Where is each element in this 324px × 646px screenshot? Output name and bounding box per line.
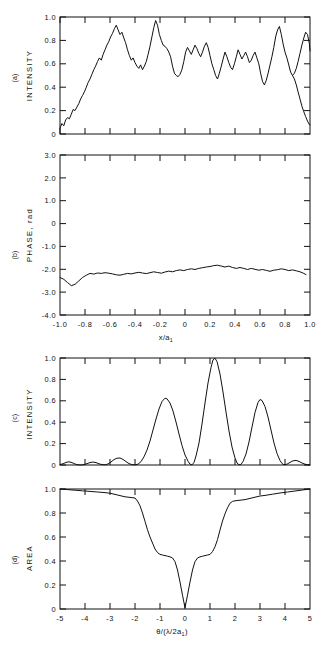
panel-d-xlabel-post: ): [185, 627, 188, 636]
panel-b-xtick-8: 0.6: [254, 320, 265, 329]
panel-d-xtick-8: 3: [258, 614, 263, 623]
panel-d-xticks: [85, 489, 285, 609]
panel-a-ytick-4: 0.8: [45, 36, 56, 45]
panel-a-ytick-3: 0.6: [45, 59, 56, 68]
panel-d-xlabel: θ/(λ/2a1): [156, 627, 188, 637]
panel-b-ytick-6: 2.0: [45, 174, 56, 183]
panel-b-xtick-9: 0.8: [279, 320, 290, 329]
panel-b: 3.0 2.0 1.0 0 -1.0 -2.0 -3.0 -4.0 -1.0 -…: [11, 151, 316, 344]
panel-b-xtick-7: 0.4: [229, 320, 240, 329]
panel-a-curve-tail: [293, 76, 311, 125]
panel-a-frame: [60, 17, 310, 134]
panel-b-xtick-6: 0.2: [204, 320, 215, 329]
multi-panel-figure: 0 0.2 0.4 0.6 0.8 1.0 INTENSITY (a): [0, 0, 324, 646]
panel-a-letter: (a): [11, 73, 19, 82]
panel-b-xtick-0: -1.0: [53, 320, 67, 329]
panel-d-yticks: [60, 489, 310, 609]
panel-a-xticks: [60, 17, 285, 134]
panel-b-xtick-1: -0.8: [78, 320, 92, 329]
panel-d-xtick-4: -1: [156, 614, 163, 623]
panel-c-curve: [60, 358, 310, 465]
panel-c-ytick-5: 1.0: [45, 354, 56, 363]
panel-c-ytick-4: 0.8: [45, 375, 56, 384]
panel-c-yticks: [60, 358, 310, 465]
panel-d-ytick-4: 0.8: [45, 509, 56, 518]
svg-text:θ/(λ/2a1): θ/(λ/2a1): [156, 627, 188, 637]
panel-d-ytick-3: 0.6: [45, 533, 56, 542]
panel-b-ytick-3: -1.0: [42, 242, 56, 251]
panel-b-ytick-0: -4.0: [42, 311, 56, 320]
panel-a-ytick-2: 0.4: [45, 83, 56, 92]
panel-b-xtick-2: -0.6: [103, 320, 117, 329]
panel-d-xtick-5: 0: [183, 614, 188, 623]
panel-b-ytick-7: 3.0: [45, 151, 56, 160]
panel-d-ytick-5: 1.0: [45, 485, 56, 494]
panel-c-ylabel: INTENSITY: [25, 388, 34, 439]
panel-d: 0 0.2 0.4 0.6 0.8 1.0 -5 -4 -3 -2 -1 0 1…: [11, 485, 312, 638]
panel-b-ytick-5: 1.0: [45, 196, 56, 205]
panel-a-ytick-1: 0.2: [45, 106, 56, 115]
panel-d-xtick-0: -5: [56, 614, 63, 623]
panel-d-ytick-2: 0.4: [45, 557, 56, 566]
panel-b-xtick-4: -0.2: [153, 320, 167, 329]
panel-b-xtick-10: 1.0: [304, 320, 315, 329]
panel-b-letter: (b): [11, 250, 19, 259]
panel-d-xtick-7: 2: [233, 614, 238, 623]
panel-c-ytick-0: 0: [51, 461, 56, 470]
panel-b-xlabel-sub: 1: [170, 337, 173, 343]
panel-b-yticks: [60, 155, 310, 315]
panel-b-ylabel: PHASE, rad: [25, 208, 34, 262]
panel-b-xtick-3: -0.4: [128, 320, 142, 329]
panel-c-letter: (c): [11, 414, 19, 423]
panel-b-curve: [60, 265, 306, 286]
panel-a-ytick-0: 0: [51, 130, 56, 139]
panel-a-ytick-5: 1.0: [45, 13, 56, 22]
panel-c-ytick-3: 0.6: [45, 396, 56, 405]
panel-d-xtick-6: 1: [208, 614, 213, 623]
figure-container: 0 0.2 0.4 0.6 0.8 1.0 INTENSITY (a): [0, 0, 324, 646]
panel-c-ytick-1: 0.2: [45, 439, 56, 448]
panel-b-frame: [60, 155, 310, 315]
panel-d-xlabel-pre: θ/(λ/2a: [156, 627, 182, 636]
panel-d-frame: [60, 489, 310, 609]
panel-d-xtick-10: 5: [308, 614, 313, 623]
panel-a: 0 0.2 0.4 0.6 0.8 1.0 INTENSITY (a): [11, 13, 310, 139]
panel-b-ytick-1: -3.0: [42, 288, 56, 297]
panel-d-ytick-1: 0.2: [45, 581, 56, 590]
panel-b-xtick-5: 0: [183, 320, 188, 329]
panel-d-xtick-3: -2: [131, 614, 138, 623]
panel-b-ytick-2: -2.0: [42, 265, 56, 274]
panel-b-xticks: [85, 155, 285, 315]
panel-c-ytick-2: 0.4: [45, 418, 56, 427]
panel-b-xlabel-base: x/a: [159, 333, 171, 342]
panel-a-yticks: [60, 17, 310, 134]
panel-c-frame: [60, 358, 310, 465]
panel-b-ytick-4: 0: [51, 219, 56, 228]
panel-d-xtick-1: -4: [81, 614, 88, 623]
panel-d-ylabel: AREA: [25, 545, 34, 571]
panel-b-xlabel: x/a1: [159, 333, 173, 343]
panel-d-xtick-2: -3: [106, 614, 113, 623]
panel-d-ytick-0: 0: [51, 605, 56, 614]
panel-d-xtick-9: 4: [283, 614, 288, 623]
panel-a-ylabel: INTENSITY: [25, 50, 34, 101]
panel-a-curve: [60, 21, 310, 129]
panel-d-letter: (d): [11, 555, 19, 564]
panel-c: 0 0.2 0.4 0.6 0.8 1.0 INTENSITY (c): [11, 354, 310, 470]
panel-d-curve: [60, 489, 310, 608]
svg-text:x/a1: x/a1: [159, 333, 173, 343]
